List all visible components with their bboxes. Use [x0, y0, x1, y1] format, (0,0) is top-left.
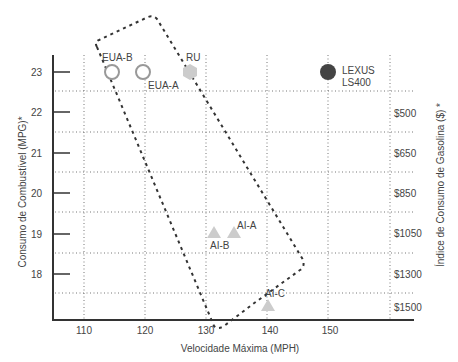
point-ai-c	[261, 299, 275, 311]
point-ai-b	[207, 226, 221, 238]
y-tick-21: 21	[31, 148, 43, 159]
label-ru: RU	[186, 52, 200, 63]
x-tick-120: 120	[137, 325, 154, 336]
point-eua-a	[136, 65, 150, 79]
label-eua-b: EUA-B	[102, 52, 133, 63]
x-tick-140: 140	[262, 325, 279, 336]
vertical-gridlines	[84, 55, 390, 320]
x-tick-150: 150	[322, 325, 339, 336]
y2-tick-labels: $500 $650 $850 $1050 $1300 $1500	[394, 108, 422, 313]
y2-tick-1300: $1300	[394, 269, 422, 280]
y-tick-20: 20	[31, 188, 43, 199]
y-axis-title: Consumo de Combustível (MPG)*	[17, 116, 28, 267]
x-tick-110: 110	[76, 325, 92, 336]
y-tick-18: 18	[31, 269, 43, 280]
label-lexus-line1: LEXUS	[342, 65, 375, 76]
y2-tick-500: $500	[394, 108, 417, 119]
x-tick-labels: 110 120 130 140 150	[76, 325, 339, 336]
point-eua-b	[105, 65, 119, 79]
y2-tick-650: $650	[394, 148, 417, 159]
y2-tick-850: $850	[394, 188, 417, 199]
y-tick-23: 23	[31, 67, 43, 78]
y2-axis-title: Índice de Consumo de Gasolina ($) *	[434, 103, 446, 267]
x-axis-title: Velocidade Máxima (MPH)	[181, 343, 299, 354]
y-tick-19: 19	[31, 229, 43, 240]
label-ai-a: AI-A	[237, 220, 257, 231]
y-tick-labels: 23 22 21 20 19 18	[31, 67, 43, 280]
label-ai-b: AI-B	[210, 240, 230, 251]
y-tick-marks	[53, 72, 70, 274]
x-tick-130: 130	[198, 325, 215, 336]
scatter-chart: 23 22 21 20 19 18 110 120 130 140 150 $5…	[0, 0, 458, 362]
point-lexus-ls400	[320, 64, 336, 80]
y-tick-22: 22	[31, 107, 43, 118]
label-ai-c: AI-C	[265, 288, 285, 299]
label-eua-a: EUA-A	[148, 80, 179, 91]
horizontal-gridlines	[55, 91, 413, 293]
label-lexus-line2: LS400	[342, 77, 371, 88]
y2-tick-1050: $1050	[394, 228, 422, 239]
point-labels: EUA-B EUA-A RU LEXUS LS400 AI-A AI-B AI-…	[102, 52, 375, 299]
y2-tick-1500: $1500	[394, 302, 422, 313]
data-points	[105, 64, 336, 311]
